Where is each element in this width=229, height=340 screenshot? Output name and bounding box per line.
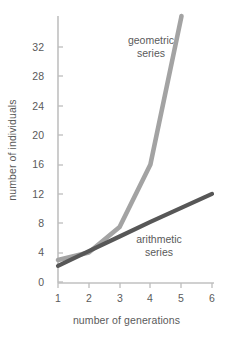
series-line-arithmetic	[58, 194, 212, 266]
chart-container: number of individuals 32 28 24 20 16 12 …	[0, 0, 229, 340]
series-line-geometric	[58, 16, 182, 260]
plot-area	[0, 0, 229, 340]
